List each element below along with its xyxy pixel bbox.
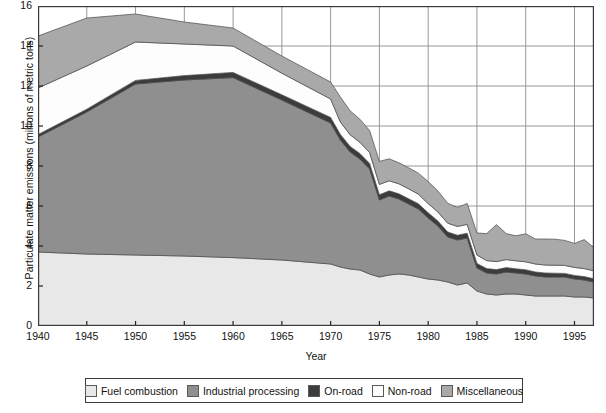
x-tick-label: 1995 — [549, 330, 599, 342]
x-tick-label: 1955 — [159, 330, 209, 342]
x-axis-label: Year — [38, 350, 594, 362]
y-tick-label: 2 — [2, 279, 32, 291]
plot-area — [38, 6, 594, 326]
legend-label: Non-road — [388, 385, 432, 397]
plot-svg — [38, 6, 594, 326]
y-tick-label: 16 — [2, 0, 32, 11]
legend-label: On-road — [324, 385, 363, 397]
legend-item-non-road[interactable]: Non-road — [372, 385, 432, 397]
y-tick-label: 6 — [2, 199, 32, 211]
legend-swatch-icon — [372, 385, 384, 397]
x-tick-label: 1980 — [403, 330, 453, 342]
legend-item-industrial-processing[interactable]: Industrial processing — [187, 385, 299, 397]
legend-swatch-icon — [85, 385, 97, 397]
legend-item-fuel-combustion[interactable]: Fuel combustion — [85, 385, 178, 397]
legend-label: Miscellaneous — [457, 385, 524, 397]
legend-item-on-road[interactable]: On-road — [308, 385, 363, 397]
chart-legend: Fuel combustionIndustrial processingOn-r… — [85, 378, 523, 403]
legend-swatch-icon — [308, 385, 320, 397]
y-tick-label: 8 — [2, 159, 32, 171]
y-tick-label: 14 — [2, 39, 32, 51]
x-tick-label: 1940 — [13, 330, 63, 342]
x-tick-label: 1990 — [501, 330, 551, 342]
y-tick-label: 10 — [2, 119, 32, 131]
x-tick-label: 1970 — [306, 330, 356, 342]
x-tick-label: 1975 — [354, 330, 404, 342]
x-tick-label: 1985 — [452, 330, 502, 342]
x-tick-label: 1965 — [257, 330, 307, 342]
x-tick-label: 1950 — [111, 330, 161, 342]
x-tick-label: 1960 — [208, 330, 258, 342]
legend-swatch-icon — [441, 385, 453, 397]
y-tick-label: 4 — [2, 239, 32, 251]
legend-item-miscellaneous[interactable]: Miscellaneous — [441, 385, 524, 397]
y-axis-label: Particulate matter emissions (millions o… — [23, 8, 35, 308]
legend-label: Fuel combustion — [101, 385, 178, 397]
x-tick-label: 1945 — [62, 330, 112, 342]
legend-label: Industrial processing — [203, 385, 299, 397]
legend-swatch-icon — [187, 385, 199, 397]
y-tick-label: 12 — [2, 79, 32, 91]
emissions-area-chart-figure: Particulate matter emissions (millions o… — [0, 0, 606, 413]
